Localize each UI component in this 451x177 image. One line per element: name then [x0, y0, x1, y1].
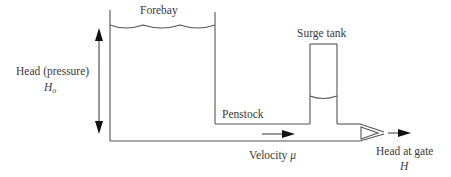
penstock-label: Penstock — [222, 108, 264, 121]
surge-tank-water-surface — [310, 96, 337, 99]
forebay-label: Forebay — [140, 4, 178, 17]
forebay-water-surface — [110, 25, 215, 28]
arrow-right-icon — [282, 130, 295, 138]
arrow-down-icon — [95, 121, 103, 134]
velocity-text: Velocity — [249, 149, 287, 161]
head-at-gate-symbol: H — [400, 160, 408, 173]
head-pressure-label: Head (pressure) — [16, 65, 89, 78]
velocity-arrow — [262, 130, 295, 138]
velocity-symbol: μ — [290, 149, 296, 161]
head-at-gate-label: Head at gate — [376, 145, 433, 158]
arrow-up-icon — [95, 28, 103, 41]
head-arrow — [95, 28, 103, 134]
head-symbol-subscript: o — [52, 86, 56, 95]
velocity-label: Velocity μ — [249, 149, 296, 162]
surge-tank-label: Surge tank — [297, 27, 346, 40]
head-symbol-label: Ho — [44, 81, 56, 97]
outflow-arrow — [388, 129, 411, 137]
arrow-right-icon — [398, 129, 411, 137]
